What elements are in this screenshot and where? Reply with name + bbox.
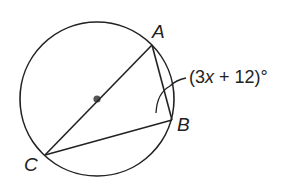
segment-ac (45, 45, 152, 155)
point-label-a: A (151, 21, 165, 42)
angle-measure-label: (3x + 12)° (189, 67, 268, 87)
angle-expr-prefix: (3 (189, 67, 205, 87)
point-label-c: C (24, 154, 38, 175)
point-label-b: B (177, 114, 190, 135)
segment-bc (45, 120, 172, 155)
circle-diagram: A B C (3x + 12)° (0, 0, 299, 181)
angle-arc-b (156, 86, 170, 113)
angle-expr-suffix: + 12)° (214, 67, 268, 87)
